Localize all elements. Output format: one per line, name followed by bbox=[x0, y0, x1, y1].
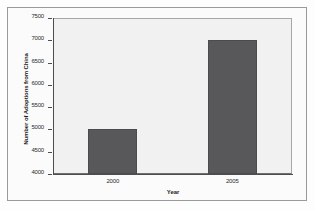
y-tick-mark bbox=[48, 107, 52, 108]
y-tick-label: 5500 bbox=[31, 102, 44, 108]
y-tick-label: 7500 bbox=[31, 13, 44, 19]
y-tick-label: 5000 bbox=[31, 124, 44, 130]
x-axis-title: Year bbox=[53, 189, 293, 195]
y-tick-mark bbox=[48, 85, 52, 86]
y-tick-label: 4000 bbox=[31, 169, 44, 175]
y-axis-title: Number of Adoptions from China bbox=[23, 21, 29, 177]
y-tick-mark bbox=[48, 40, 52, 41]
bar bbox=[88, 129, 137, 174]
y-tick-mark bbox=[48, 174, 52, 175]
y-tick-mark bbox=[48, 18, 52, 19]
bar bbox=[208, 40, 257, 174]
y-tick-label: 6000 bbox=[31, 80, 44, 86]
x-tick-label: 2000 bbox=[93, 178, 133, 184]
x-tick-label: 2005 bbox=[212, 178, 252, 184]
y-tick-mark bbox=[48, 63, 52, 64]
y-tick-mark bbox=[48, 129, 52, 130]
y-axis-line bbox=[53, 18, 54, 175]
y-tick-label: 6500 bbox=[31, 58, 44, 64]
y-tick-mark bbox=[48, 152, 52, 153]
x-axis-line bbox=[53, 174, 293, 175]
y-tick-label: 4500 bbox=[31, 147, 44, 153]
y-tick-label: 7000 bbox=[31, 35, 44, 41]
chart-figure: 75007000650060005500500045004000 2000200… bbox=[0, 0, 315, 210]
